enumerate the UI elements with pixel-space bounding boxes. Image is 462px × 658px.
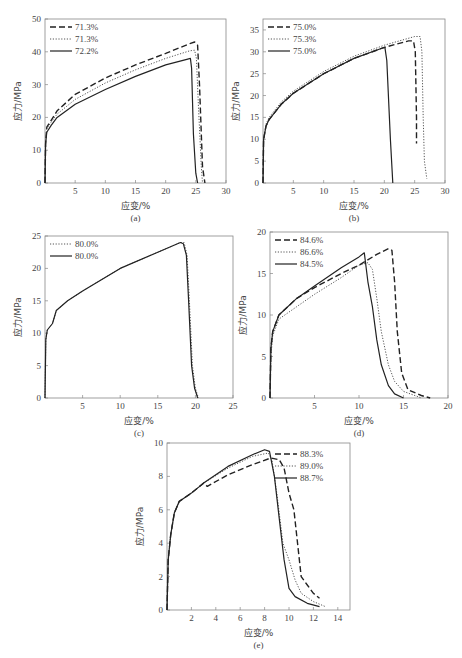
- y-tick-label: 0: [159, 605, 164, 615]
- y-tick-label: 15: [257, 269, 267, 279]
- x-axis-label: 应变/%: [121, 200, 151, 211]
- legend-label: 88.7%: [300, 473, 324, 483]
- legend-label: 89.0%: [300, 461, 324, 471]
- y-tick-label: 2: [159, 572, 164, 582]
- y-tick-label: 5: [255, 156, 260, 166]
- x-axis-label: 应变/%: [124, 415, 154, 426]
- y-tick-label: 0: [37, 178, 42, 188]
- y-axis-label: 应力/MPa: [237, 295, 248, 334]
- x-tick-label: 25: [410, 186, 420, 196]
- y-tick-label: 0: [255, 178, 260, 188]
- x-tick-label: 10: [319, 186, 329, 196]
- y-tick-label: 10: [32, 328, 42, 338]
- x-tick-label: 6: [238, 613, 243, 623]
- series-line-solid: [270, 253, 404, 398]
- x-tick-label: 8: [262, 613, 267, 623]
- legend-label: 80.0%: [75, 239, 99, 249]
- x-tick-label: 25: [229, 401, 239, 411]
- subplot-caption: (e): [254, 640, 264, 650]
- x-tick-label: 2: [189, 613, 194, 623]
- series-line-solid: [45, 58, 198, 183]
- y-tick-label: 40: [32, 47, 42, 57]
- legend-label: 86.6%: [300, 247, 324, 257]
- legend-label: 71.3%: [75, 34, 99, 44]
- x-tick-label: 20: [161, 186, 171, 196]
- y-tick-label: 25: [32, 231, 42, 241]
- y-tick-label: 6: [159, 505, 164, 515]
- subplot-caption: (d): [354, 428, 365, 438]
- series-line-dashed: [167, 458, 320, 610]
- y-tick-label: 35: [250, 25, 260, 35]
- subplot-b: 5101520253005101520253035应变/%应力/MPa(b)75…: [230, 19, 450, 223]
- y-tick-label: 30: [32, 80, 42, 90]
- legend-label: 72.2%: [75, 46, 99, 56]
- x-tick-label: 25: [191, 186, 201, 196]
- y-tick-label: 30: [250, 47, 260, 57]
- x-tick-label: 14: [333, 613, 343, 623]
- series-line-solid: [263, 47, 393, 183]
- subplot-a: 5101520253001020304050应变/%应力/MPa(a)71.3%…: [12, 14, 231, 223]
- x-tick-label: 5: [80, 401, 85, 411]
- subplot-caption: (b): [349, 213, 360, 223]
- y-tick-label: 20: [32, 112, 42, 122]
- x-tick-label: 15: [350, 186, 360, 196]
- series-line-dotted: [263, 37, 427, 184]
- legend-label: 88.3%: [300, 449, 324, 459]
- y-tick-label: 4: [159, 538, 164, 548]
- x-tick-label: 12: [309, 613, 318, 623]
- y-tick-label: 15: [32, 296, 42, 306]
- plot-frame: [263, 19, 445, 183]
- subplot-caption: (c): [134, 428, 144, 438]
- subplot-e: 24681012140246810应变/%应力/MPa(e)88.3%89.0%…: [134, 438, 350, 650]
- legend-label: 84.6%: [300, 235, 324, 245]
- x-tick-label: 15: [153, 401, 163, 411]
- y-tick-label: 50: [32, 14, 42, 24]
- x-tick-label: 10: [116, 401, 126, 411]
- x-tick-label: 5: [73, 186, 78, 196]
- x-tick-label: 5: [291, 186, 296, 196]
- x-tick-label: 30: [222, 186, 232, 196]
- x-tick-label: 20: [191, 401, 201, 411]
- series-line-dashed: [263, 41, 417, 183]
- y-axis-label: 应力/MPa: [134, 507, 145, 546]
- x-tick-label: 10: [101, 186, 111, 196]
- series-line-dotted: [45, 243, 198, 399]
- x-tick-label: 30: [441, 186, 451, 196]
- x-tick-label: 5: [312, 401, 317, 411]
- y-axis-label: 应力/MPa: [12, 297, 23, 336]
- y-tick-label: 25: [250, 69, 260, 79]
- y-tick-label: 20: [250, 91, 260, 101]
- y-tick-label: 5: [37, 361, 42, 371]
- series-line-dashed: [45, 42, 205, 183]
- y-axis-label: 应力/MPa: [12, 81, 23, 120]
- x-tick-label: 4: [214, 613, 219, 623]
- series-line-dotted: [270, 263, 421, 398]
- y-tick-label: 15: [250, 112, 260, 122]
- y-tick-label: 20: [32, 263, 42, 273]
- y-axis-label: 应力/MPa: [230, 81, 241, 120]
- legend-label: 75.0%: [293, 22, 317, 32]
- plot-frame: [45, 19, 226, 183]
- y-tick-label: 8: [159, 471, 164, 481]
- y-tick-label: 5: [262, 352, 267, 362]
- x-axis-label: 应变/%: [244, 627, 274, 638]
- series-line-solid: [167, 450, 320, 610]
- x-tick-label: 20: [380, 186, 390, 196]
- y-tick-label: 0: [262, 393, 267, 403]
- x-tick-label: 10: [355, 401, 365, 411]
- legend-label: 84.5%: [300, 259, 324, 269]
- x-tick-label: 15: [399, 401, 409, 411]
- legend-label: 75.0%: [293, 46, 317, 56]
- x-tick-label: 20: [444, 401, 454, 411]
- subplot-caption: (a): [131, 213, 141, 223]
- legend-label: 75.3%: [293, 34, 317, 44]
- x-axis-label: 应变/%: [344, 415, 374, 426]
- x-tick-label: 15: [131, 186, 141, 196]
- legend-label: 71.3%: [75, 22, 99, 32]
- y-tick-label: 20: [257, 227, 267, 237]
- y-tick-label: 0: [37, 393, 42, 403]
- subplot-d: 510152005101520应变/%应力/MPa(d)84.6%86.6%84…: [237, 227, 453, 438]
- x-axis-label: 应变/%: [339, 200, 369, 211]
- figure-canvas: 5101520253001020304050应变/%应力/MPa(a)71.3%…: [0, 0, 462, 658]
- x-tick-label: 10: [285, 613, 295, 623]
